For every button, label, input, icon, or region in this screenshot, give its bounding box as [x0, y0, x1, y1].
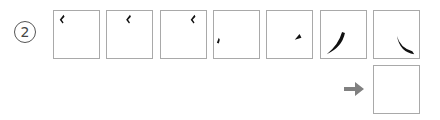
hook-stroke-icon	[107, 11, 152, 58]
stroke-box-6	[320, 10, 367, 59]
answer-box[interactable]	[373, 65, 420, 114]
hook-stroke-icon	[54, 11, 99, 58]
hook-stroke-icon	[161, 11, 206, 58]
right-falling-stroke-icon	[374, 11, 419, 58]
stroke-box-4	[213, 10, 260, 59]
dot-stroke-icon	[267, 11, 312, 58]
left-falling-stroke-icon	[321, 11, 366, 58]
right-arrow-icon	[343, 81, 365, 97]
stroke-box-2	[106, 10, 153, 59]
question-number-label: 2	[21, 24, 30, 40]
stroke-box-5	[266, 10, 313, 59]
stroke-box-1	[53, 10, 100, 59]
stroke-box-3	[160, 10, 207, 59]
stroke-box-7	[373, 10, 420, 59]
question-number: 2	[14, 21, 36, 43]
dot-stroke-icon	[214, 11, 259, 58]
